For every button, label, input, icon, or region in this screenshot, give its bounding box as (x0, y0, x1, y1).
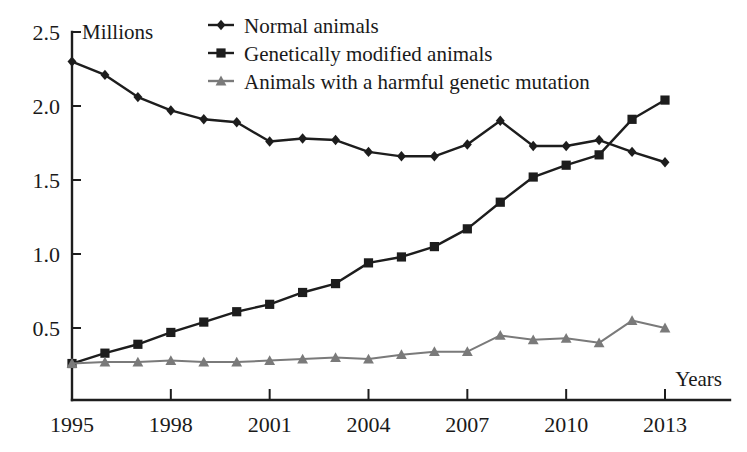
series-3 (67, 315, 671, 368)
y-tick-label: 2.0 (33, 94, 61, 119)
series-marker-square (166, 328, 175, 337)
x-tick-label: 2010 (544, 412, 588, 437)
legend-label: Animals with a harmful genetic mutation (244, 70, 590, 94)
x-tick-label: 2001 (248, 412, 292, 437)
series-marker-square (529, 172, 538, 181)
x-tick-label: 2004 (347, 412, 391, 437)
series-marker-diamond (133, 92, 142, 102)
legend-item-1: Normal animals (208, 14, 379, 38)
chart-canvas: 0.51.01.52.02.5 199519982001200420072010… (0, 0, 747, 452)
series-marker-diamond (232, 117, 241, 127)
series-marker-square (199, 317, 208, 326)
series-marker-diamond (595, 135, 604, 145)
series-marker-square (364, 258, 373, 267)
series-marker-diamond (199, 114, 208, 124)
series-path (72, 100, 665, 363)
series-marker-diamond (628, 147, 637, 157)
legend-item-3: Animals with a harmful genetic mutation (208, 70, 590, 94)
x-tick-label: 1995 (50, 412, 94, 437)
x-tick-label: 2013 (643, 412, 687, 437)
series-marker-square (298, 288, 307, 297)
series-marker-diamond (661, 157, 670, 167)
x-tick-label: 1998 (149, 412, 193, 437)
series-marker-triangle (627, 315, 638, 325)
series-marker-square (627, 115, 636, 124)
legend-label: Normal animals (244, 14, 379, 38)
y-tick-label: 2.5 (33, 20, 61, 45)
chart-legend: Normal animalsGenetically modified anima… (208, 14, 590, 94)
series-marker-diamond (298, 133, 307, 143)
series-marker-square (562, 161, 571, 170)
y-tick-label: 1.0 (33, 242, 61, 267)
series-marker-square (133, 340, 142, 349)
series-marker-diamond (397, 151, 406, 161)
series-marker-square (397, 252, 406, 261)
series-marker-square (595, 150, 604, 159)
x-axis-title: Years (675, 367, 722, 391)
series-marker-diamond (217, 20, 226, 30)
legend-item-2: Genetically modified animals (208, 42, 492, 66)
series-marker-diamond (562, 141, 571, 151)
series-marker-square (496, 198, 505, 207)
y-axis-tick-labels: 0.51.01.52.02.5 (33, 20, 61, 341)
y-axis-ticks (72, 32, 81, 328)
legend-label: Genetically modified animals (244, 42, 492, 66)
series-marker-square (216, 48, 225, 57)
y-axis-title: Millions (82, 20, 153, 44)
y-tick-label: 0.5 (33, 316, 61, 341)
series-marker-square (100, 349, 109, 358)
series-group (67, 56, 671, 368)
x-tick-label: 2007 (445, 412, 489, 437)
series-marker-square (463, 224, 472, 233)
series-marker-diamond (166, 105, 175, 115)
series-marker-square (331, 279, 340, 288)
series-marker-diamond (100, 70, 109, 80)
series-marker-square (232, 307, 241, 316)
y-tick-label: 1.5 (33, 168, 61, 193)
series-marker-diamond (331, 135, 340, 145)
series-marker-diamond (364, 147, 373, 157)
line-chart: 0.51.01.52.02.5 199519982001200420072010… (0, 0, 747, 452)
series-marker-diamond (265, 136, 274, 146)
series-marker-square (265, 300, 274, 309)
x-axis-tick-labels: 1995199820012004200720102013 (50, 412, 687, 437)
series-marker-square (430, 242, 439, 251)
series-marker-square (660, 95, 669, 104)
series-marker-diamond (430, 151, 439, 161)
series-2 (67, 95, 669, 368)
x-axis-ticks (72, 389, 665, 400)
series-marker-diamond (68, 56, 77, 66)
